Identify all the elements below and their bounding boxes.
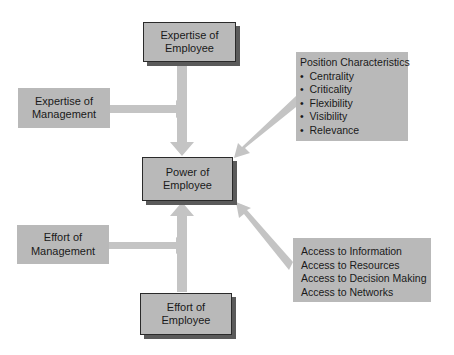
bullet-icon: • (300, 124, 304, 136)
label: Employee (163, 179, 212, 193)
bullet-icon: • (300, 97, 304, 109)
list-item: Access to Resources (301, 259, 431, 273)
position-characteristics-box: Position Characteristics • Centrality • … (296, 52, 408, 141)
label: Management (32, 108, 96, 122)
arrow-position-to-center (234, 96, 301, 158)
expertise-of-management-box: Expertise of Management (18, 88, 110, 128)
list-item: • Flexibility (300, 97, 408, 111)
list-item: • Relevance (300, 124, 408, 138)
label: Employee (160, 42, 218, 56)
power-of-employee-box: Power of Employee (142, 157, 233, 201)
label: Management (31, 245, 95, 259)
label: Power of (163, 166, 212, 180)
arrow-effort-management (109, 237, 187, 254)
arrow-expertise-management (110, 100, 187, 118)
expertise-of-employee-box: Expertise of Employee (143, 22, 236, 62)
list-item: • Criticality (300, 83, 408, 97)
label: Expertise of (32, 95, 96, 109)
list-item: Access to Information (301, 245, 431, 259)
label: Effort of (162, 301, 211, 315)
label: Employee (162, 314, 211, 328)
bullet-icon: • (300, 83, 304, 95)
bullet-icon: • (300, 110, 304, 122)
effort-of-management-box: Effort of Management (17, 225, 109, 264)
access-box: Access to Information Access to Resource… (293, 238, 431, 302)
label: Effort of (31, 231, 95, 245)
bullet-icon: • (300, 70, 304, 82)
list-item: • Visibility (300, 110, 408, 124)
list-item: Access to Decision Making (301, 272, 431, 286)
list-item: • Centrality (300, 70, 408, 84)
arrow-access-to-center (236, 202, 293, 270)
label: Expertise of (160, 29, 218, 43)
position-title: Position Characteristics (300, 56, 408, 70)
effort-of-employee-box: Effort of Employee (140, 293, 232, 335)
list-item: Access to Networks (301, 286, 431, 300)
